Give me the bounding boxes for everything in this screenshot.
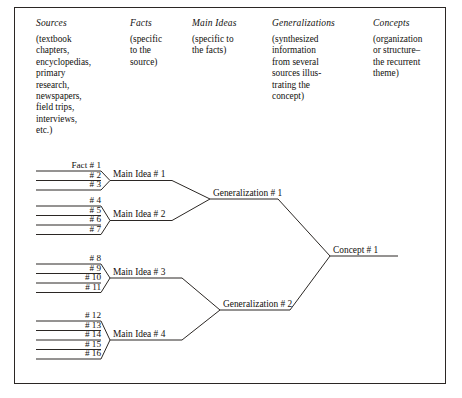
generalization-converge-concept: [278, 199, 330, 310]
fact-label: # 8: [30, 253, 101, 263]
fact-converge-1: [101, 171, 110, 190]
fact-label: Fact # 1: [30, 160, 101, 170]
fact-label: # 2: [30, 170, 101, 180]
fact-converge-4: [101, 321, 110, 359]
hierarchy-diagram: Fact # 1 # 2 # 3 # 4 # 5 # 6 # 7 # 8 # 9…: [0, 0, 462, 398]
fact-label: # 15: [30, 339, 101, 349]
main-idea-label-4: Main Idea # 4: [113, 329, 165, 339]
fact-label: # 9: [30, 263, 101, 273]
fact-label: # 14: [30, 329, 101, 339]
fact-label: # 4: [30, 195, 101, 205]
fact-label: # 13: [30, 320, 101, 330]
fact-label: # 7: [30, 224, 101, 234]
fact-label: # 3: [30, 179, 101, 189]
generalization-label-1: Generalization # 1: [213, 188, 282, 198]
fact-converge-2: [101, 206, 110, 235]
concept-label-1: Concept # 1: [333, 245, 378, 255]
fact-label: # 11: [30, 282, 101, 292]
main-idea-converge-gen2: [182, 278, 220, 340]
fact-label: # 10: [30, 272, 101, 282]
figure-canvas: Sources (textbook chapters, encyclopedia…: [0, 0, 462, 398]
fact-label: # 12: [30, 310, 101, 320]
main-idea-label-2: Main Idea # 2: [113, 209, 165, 219]
generalization-label-2: Generalization # 2: [223, 299, 292, 309]
main-idea-label-1: Main Idea # 1: [113, 169, 165, 179]
fact-label: # 6: [30, 214, 101, 224]
fact-label: # 16: [30, 348, 101, 358]
main-idea-converge-gen1: [172, 181, 210, 221]
fact-label: # 5: [30, 205, 101, 215]
main-idea-label-3: Main Idea # 3: [113, 267, 165, 277]
fact-converge-3: [101, 264, 110, 293]
